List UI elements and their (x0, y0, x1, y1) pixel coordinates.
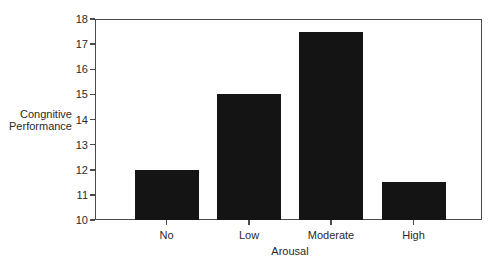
y-axis-title-line-1: Congnitive (0, 108, 72, 120)
x-axis-title: Arousal (250, 245, 330, 257)
x-tick-label: High (374, 229, 454, 242)
y-tick (90, 43, 95, 45)
bar-low (217, 94, 281, 220)
y-tick (90, 144, 95, 146)
x-tick-label: Low (209, 229, 289, 242)
x-tick (166, 220, 168, 225)
bar-high (382, 182, 446, 220)
bar-no (135, 170, 199, 220)
y-tick-label: 15 (58, 88, 88, 100)
y-tick-label: 10 (58, 214, 88, 226)
y-axis-title-line-2: Performance (0, 120, 72, 132)
y-tick-label: 11 (58, 189, 88, 201)
x-tick (413, 220, 415, 225)
y-tick-label: 17 (58, 38, 88, 50)
y-tick (90, 169, 95, 171)
x-tick (248, 220, 250, 225)
y-tick-label: 16 (58, 63, 88, 75)
y-tick (90, 119, 95, 121)
x-tick (330, 220, 332, 225)
y-tick-label: 12 (58, 164, 88, 176)
y-tick-label: 13 (58, 139, 88, 151)
x-tick-label: Moderate (291, 229, 371, 242)
x-tick-label: No (127, 229, 207, 242)
bar-chart: 101112131415161718 NoLowModerateHigh Con… (0, 0, 492, 267)
y-tick (90, 219, 95, 221)
y-tick (90, 194, 95, 196)
y-tick (90, 18, 95, 20)
y-axis-title: Congnitive Performance (0, 108, 72, 132)
y-tick-label: 18 (58, 13, 88, 25)
y-tick (90, 69, 95, 71)
bar-moderate (299, 32, 363, 220)
y-tick (90, 94, 95, 96)
